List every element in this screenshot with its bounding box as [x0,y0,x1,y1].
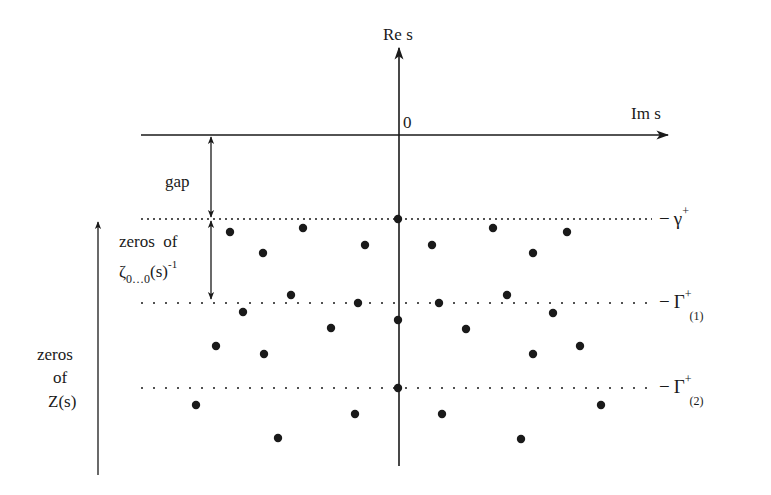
gamma-plus-label: −γ+ [659,204,689,229]
zero-dot [503,291,511,299]
zero-dot [274,434,282,442]
zero-dot [517,435,525,443]
zero-dot [489,224,497,232]
zero-dot [549,309,557,317]
zero-dot [226,228,234,236]
zero-dot [192,401,200,409]
zero-dot [529,249,537,257]
zero-dot [327,324,335,332]
zero-dot [212,342,220,350]
complex-plane-diagram: Re s Im s 0 gap zeros of ζ0…0(s)-1 zeros… [0,0,771,495]
zero-dot [597,401,605,409]
zero-dot [428,241,436,249]
z-zeros-label-line2: of [53,368,68,387]
zero-dot [259,249,267,257]
zero-dot [563,228,571,236]
zero-dot [438,410,446,418]
zero-dot [260,350,268,358]
re-axis-label: Re s [383,25,413,44]
zero-dot [239,308,247,316]
zeta-argument: (s) [150,262,168,281]
zeta-subscript: 0…0 [126,272,150,286]
zero-dot [576,342,584,350]
zero-dot [529,350,537,358]
zero-dot [394,215,402,223]
z-zeros-label-line3: Z(s) [48,392,76,411]
zeta-zeros-label: zeros of [119,232,178,251]
im-axis-label: Im s [631,104,661,123]
gap-label: gap [165,172,190,191]
zero-dot [394,316,402,324]
Gamma-plus-1-label: −Γ+(1) [659,287,703,323]
zero-dot [354,299,362,307]
zero-dot [287,291,295,299]
zero-dot [394,384,402,392]
zero-dot [361,241,369,249]
zeta-function-label: ζ0…0(s)-1 [119,258,177,286]
origin-label: 0 [403,113,412,132]
zeta-exponent: -1 [168,258,177,270]
zeta-symbol: ζ [119,262,126,281]
zero-dot [462,325,470,333]
Gamma-plus-2-label: −Γ+(2) [659,372,703,408]
zero-dot [435,299,443,307]
zero-dot [299,224,307,232]
zero-dot [351,410,359,418]
z-zeros-label-line1: zeros [37,345,73,364]
